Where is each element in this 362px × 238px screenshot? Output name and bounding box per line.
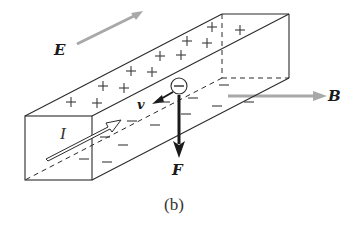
label-v: v	[137, 98, 145, 111]
plus-charge	[92, 98, 102, 108]
plus-charge	[207, 22, 217, 32]
label-I: I	[60, 125, 66, 142]
current-arrow	[46, 120, 121, 161]
label-B: B	[328, 89, 341, 104]
plus-charge	[155, 51, 165, 61]
label-F: F	[172, 163, 183, 178]
plus-charge	[119, 83, 129, 93]
plus-charge	[98, 81, 108, 91]
plus-charge	[126, 66, 136, 76]
front-face	[25, 116, 92, 180]
plus-charge	[66, 97, 76, 107]
figure-caption: (b)	[164, 196, 184, 213]
plus-charge	[235, 25, 245, 35]
label-E: E	[54, 43, 65, 58]
plus-charge	[147, 67, 157, 77]
electric-field-arrow	[77, 11, 143, 44]
magnetic-field-arrow	[228, 91, 327, 101]
plus-charge	[182, 36, 192, 46]
electron	[171, 78, 187, 94]
force-arrow	[173, 95, 185, 158]
plus-charge	[176, 50, 186, 60]
plus-charge	[202, 38, 212, 48]
